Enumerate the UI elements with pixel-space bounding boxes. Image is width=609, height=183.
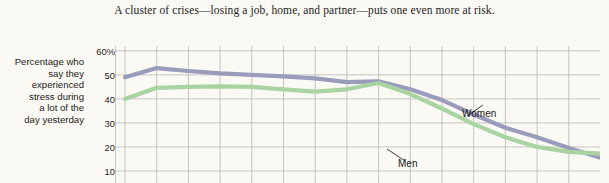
y-tick-label: 40 xyxy=(85,93,115,104)
y-tick-label: 60% xyxy=(85,45,115,56)
series-lines xyxy=(125,68,600,167)
plot-area xyxy=(115,46,600,183)
y-tick-label: 20 xyxy=(85,141,115,152)
y-axis-title-line: stress during xyxy=(4,91,84,103)
series-line-women xyxy=(125,68,600,166)
y-axis-title-line: Percentage who xyxy=(4,56,84,68)
y-tick-label: 50 xyxy=(85,69,115,80)
chart-figure: A cluster of crises—losing a job, home, … xyxy=(0,0,609,183)
y-axis-title-line: a lot of the xyxy=(4,102,84,114)
vertical-gridlines xyxy=(116,46,569,183)
series-label-men: Men xyxy=(398,158,417,169)
y-axis-title: Percentage who say they experienced stre… xyxy=(4,56,84,126)
y-tick-label: 10 xyxy=(85,165,115,176)
y-axis-ticks: 60%5040302010 xyxy=(82,0,115,183)
y-tick-label: 30 xyxy=(85,117,115,128)
series-line-men xyxy=(125,83,600,167)
y-axis-title-line: day yesterday xyxy=(4,114,84,126)
chart-canvas xyxy=(115,46,600,183)
y-axis-title-line: say they xyxy=(4,68,84,80)
y-axis-title-line: experienced xyxy=(4,79,84,91)
series-label-women: Women xyxy=(462,108,496,119)
